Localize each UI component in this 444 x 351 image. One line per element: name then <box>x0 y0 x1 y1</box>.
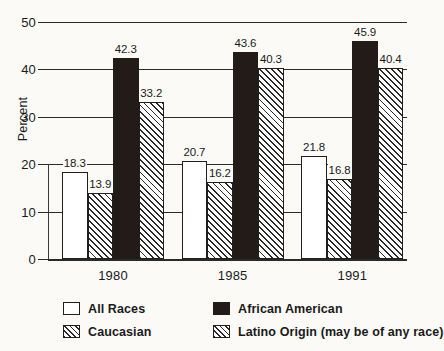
bar <box>301 156 327 259</box>
x-axis-tick-label: 1985 <box>218 268 248 283</box>
bar <box>233 52 259 259</box>
bar-value-label: 16.2 <box>208 167 232 179</box>
gridline <box>48 22 407 23</box>
y-axis-tick-mark <box>38 259 48 260</box>
bar <box>182 161 208 259</box>
bar <box>88 193 114 259</box>
legend-label: African American <box>238 302 343 316</box>
y-axis-line <box>48 164 49 259</box>
y-axis-tick-mark <box>38 22 48 23</box>
y-axis-tick-label: 40 <box>0 62 36 77</box>
legend-swatch-icon <box>213 302 230 315</box>
y-axis-tick-label: 10 <box>0 204 36 219</box>
y-axis-tick-label: 0 <box>0 252 36 267</box>
bar-value-label: 13.9 <box>88 178 112 190</box>
legend-swatch-icon <box>213 325 230 338</box>
legend-swatch-icon <box>63 325 80 338</box>
bar-value-label: 33.2 <box>139 87 163 99</box>
y-axis-tick-label: 50 <box>0 15 36 30</box>
y-axis-tick-mark <box>38 117 48 118</box>
y-axis-tick-mark <box>38 164 48 165</box>
bar-value-label: 21.8 <box>302 141 326 153</box>
legend-item: Latino Origin (may be of any race) <box>213 325 444 339</box>
y-axis-tick-mark <box>38 69 48 70</box>
chart-legend: All RacesAfrican AmericanCaucasianLatino… <box>63 297 408 343</box>
bar <box>207 182 233 259</box>
legend-item: All Races <box>63 302 213 316</box>
bar <box>378 68 404 259</box>
y-axis-tick-label: 20 <box>0 157 36 172</box>
bar-value-label: 20.7 <box>182 146 206 158</box>
bar-value-label: 45.9 <box>353 26 377 38</box>
x-axis-tick-label: 1991 <box>337 268 367 283</box>
x-axis-tick-label: 1980 <box>98 268 128 283</box>
bar-value-label: 40.3 <box>259 53 283 65</box>
bar <box>62 172 88 259</box>
bar <box>327 179 353 259</box>
bar-value-label: 18.3 <box>63 157 87 169</box>
bar <box>258 68 284 259</box>
y-axis-tick-label: 30 <box>0 109 36 124</box>
legend-label: Caucasian <box>88 325 151 339</box>
legend-label: Latino Origin (may be of any race) <box>238 325 444 339</box>
y-axis-tick-mark <box>38 212 48 213</box>
bar-value-label: 42.3 <box>114 43 138 55</box>
legend-swatch-icon <box>63 302 80 315</box>
legend-item: Caucasian <box>63 325 213 339</box>
bar-value-label: 16.8 <box>328 164 352 176</box>
x-axis-line <box>48 259 407 261</box>
bar <box>139 102 165 259</box>
bar-value-label: 43.6 <box>233 37 257 49</box>
bar <box>113 58 139 259</box>
bar <box>352 41 378 259</box>
legend-item: African American <box>213 302 444 316</box>
bar-value-label: 40.4 <box>379 53 403 65</box>
legend-label: All Races <box>88 302 145 316</box>
